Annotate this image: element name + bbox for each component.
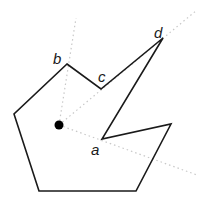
label-d: d — [154, 24, 163, 41]
polygon-diagram: a b c d — [0, 0, 209, 204]
viewpoint-dot — [55, 121, 64, 130]
label-c: c — [98, 68, 106, 85]
label-a: a — [91, 141, 99, 158]
visibility-rays — [59, 10, 197, 175]
label-b: b — [53, 50, 61, 67]
polygon-outline — [14, 38, 171, 191]
ray-through-a — [59, 125, 197, 175]
ray-through-b — [59, 18, 76, 125]
